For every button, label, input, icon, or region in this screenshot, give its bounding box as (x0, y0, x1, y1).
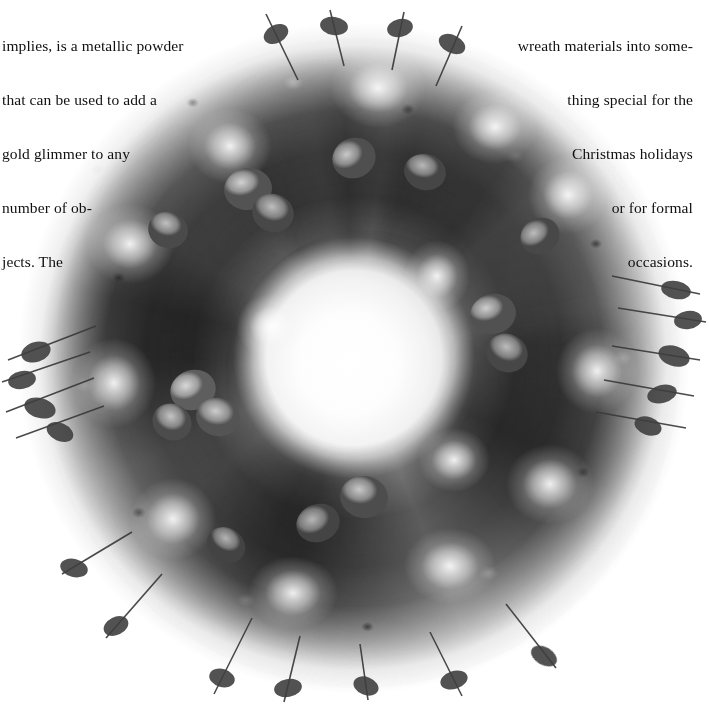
caption-line: thing special for the (518, 91, 693, 109)
eucalyptus-leaf (337, 473, 390, 521)
right-caption-text: wreath materials into some- thing specia… (518, 1, 693, 307)
babys-breath-cluster (188, 108, 272, 184)
babys-breath-cluster (72, 338, 156, 428)
eucalyptus-leaf (326, 131, 383, 186)
wreath-center-opening (225, 230, 505, 520)
babys-breath-cluster (404, 240, 470, 312)
eucalyptus-leaf (146, 396, 199, 447)
caption-line: number of ob- (2, 199, 184, 217)
caption-line: that can be used to add a (2, 91, 184, 109)
babys-breath-cluster (506, 444, 594, 524)
babys-breath-cluster (404, 528, 496, 604)
caption-line: Christmas holidays (518, 145, 693, 163)
babys-breath-cluster (418, 428, 490, 492)
scanned-book-page: implies, is a metallic powder that can b… (0, 0, 709, 710)
babys-breath-cluster (130, 478, 216, 560)
eucalyptus-leaf (400, 149, 449, 194)
eucalyptus-leaf (480, 327, 534, 380)
eucalyptus-leaf (200, 520, 252, 571)
caption-line: jects. The (2, 253, 184, 271)
caption-line: or for formal (518, 199, 693, 217)
eucalyptus-leaf (221, 165, 274, 213)
caption-line: gold glimmer to any (2, 145, 184, 163)
left-caption-text: implies, is a metallic powder that can b… (2, 1, 184, 307)
caption-line: occasions. (518, 253, 693, 271)
babys-breath-cluster (236, 294, 306, 358)
caption-line: wreath materials into some- (518, 37, 693, 55)
babys-breath-cluster (248, 556, 338, 630)
eucalyptus-leaf (291, 498, 345, 549)
eucalyptus-leaf (246, 188, 299, 239)
babys-breath-cluster (556, 328, 638, 414)
eucalyptus-leaf (193, 394, 244, 440)
eucalyptus-leaf (165, 364, 221, 416)
babys-breath-cluster (330, 48, 426, 128)
caption-line: implies, is a metallic powder (2, 37, 184, 55)
eucalyptus-leaf (466, 290, 519, 339)
